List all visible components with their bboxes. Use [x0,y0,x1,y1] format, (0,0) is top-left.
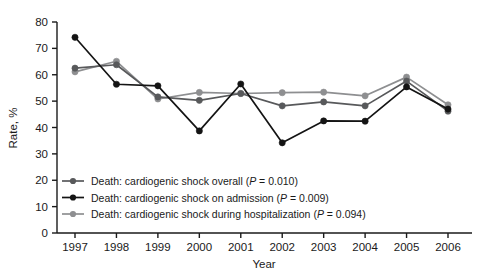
legend-label-text: Death: cardiogenic shock on admission ( [91,192,281,204]
x-tick-label: 1997 [62,241,88,253]
y-tick-label: 60 [35,69,48,81]
y-tick-label: 0 [42,227,48,239]
legend-p-value: = 0.094) [324,208,366,220]
data-point-marker [321,118,327,124]
y-tick-label: 50 [35,95,48,107]
legend-p-symbol: P [249,175,256,187]
data-point-marker [238,81,244,87]
legend-dot-marker [70,211,76,217]
data-point-marker [196,128,202,134]
data-point-marker [403,78,409,84]
x-tick-label: 2005 [394,241,420,253]
x-axis-title: Year [252,258,275,270]
y-tick-label: 40 [35,122,48,134]
data-point-marker [196,89,202,95]
data-point-marker [113,81,119,87]
legend-label-text: Death: cardiogenic shock during hospital… [91,208,317,220]
data-point-marker [196,97,202,103]
x-tick-label: 2001 [228,241,254,253]
data-point-marker [362,118,368,124]
data-point-marker [72,34,78,40]
x-tick-label: 1999 [145,241,171,253]
line-chart: 01020304050607080 1997199819992000200120… [0,0,483,277]
y-tick-label: 20 [35,174,48,186]
legend-label-text: Death: cardiogenic shock overall ( [91,175,250,187]
x-tick-label: 2003 [311,241,337,253]
data-point-marker [362,93,368,99]
data-point-marker [238,90,244,96]
legend-dot-marker [70,178,76,184]
y-axis-ticks: 01020304050607080 [35,16,57,239]
data-point-marker [403,84,409,90]
data-series [72,62,451,115]
x-tick-label: 2006 [435,241,461,253]
chart-container: 01020304050607080 1997199819992000200120… [0,0,483,277]
x-tick-label: 2004 [352,241,378,253]
y-tick-label: 30 [35,148,48,160]
legend-entry[interactable]: Death: cardiogenic shock overall (P = 0.… [62,175,298,187]
legend-dot-marker [70,194,76,200]
legend-p-symbol: P [280,192,287,204]
legend-label: Death: cardiogenic shock on admission (P… [91,192,329,204]
data-point-marker [279,103,285,109]
data-point-marker [279,140,285,146]
data-point-marker [321,89,327,95]
x-tick-label: 1998 [104,241,130,253]
chart-legend: Death: cardiogenic shock overall (P = 0.… [62,175,366,220]
legend-label: Death: cardiogenic shock overall (P = 0.… [91,175,298,187]
x-tick-label: 2002 [269,241,295,253]
data-point-marker [113,62,119,68]
y-tick-label: 80 [35,16,48,28]
data-point-marker [445,106,451,112]
legend-p-symbol: P [317,208,324,220]
data-point-marker [321,99,327,105]
x-tick-label: 2000 [187,241,213,253]
legend-entry[interactable]: Death: cardiogenic shock on admission (P… [62,192,329,204]
data-point-marker [362,103,368,109]
data-point-marker [155,83,161,89]
data-point-marker [155,94,161,100]
x-axis-ticks: 1997199819992000200120022003200420052006 [62,233,461,253]
legend-p-value: = 0.010) [256,175,298,187]
series-line [75,65,448,111]
y-tick-label: 10 [35,201,48,213]
legend-p-value: = 0.009) [287,192,329,204]
data-series [72,34,451,146]
legend-entry[interactable]: Death: cardiogenic shock during hospital… [62,208,366,220]
y-tick-label: 70 [35,42,48,54]
legend-label: Death: cardiogenic shock during hospital… [91,208,366,220]
series-layer [72,34,451,146]
y-axis-title: Rate, % [7,108,19,149]
data-point-marker [72,65,78,71]
data-point-marker [279,90,285,96]
